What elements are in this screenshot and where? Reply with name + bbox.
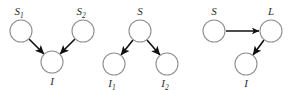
node-label-s: S — [211, 5, 217, 17]
node-s — [129, 20, 151, 42]
panel-collider-structure: S1 S2 I — [10, 5, 94, 87]
node-i1 — [103, 53, 125, 75]
edge-s-to-i1 — [121, 40, 133, 55]
causal-graph-figure: S1 S2 I S I1 I2 S L I — [0, 0, 297, 90]
node-label-i2: I2 — [160, 77, 169, 90]
edge-l-to-i — [253, 40, 264, 55]
node-i — [235, 53, 257, 75]
node-label-i: I — [243, 77, 249, 89]
causal-graph-canvas: S1 S2 I S I1 I2 S L I — [0, 0, 297, 90]
node-label-i: I — [49, 75, 55, 87]
node-label-i1: I1 — [107, 77, 115, 90]
node-label-s1: S1 — [14, 5, 23, 20]
node-s1 — [10, 20, 32, 42]
panel-fork-structure: S I1 I2 — [103, 5, 178, 90]
node-label-s2: S2 — [76, 5, 86, 20]
node-i — [41, 51, 63, 73]
edge-s2-to-i — [60, 39, 75, 54]
node-s2 — [72, 20, 94, 42]
panel-chain-structure: S L I — [203, 5, 282, 89]
node-label-l: L — [267, 5, 274, 17]
node-label-s: S — [137, 5, 143, 17]
node-l — [260, 20, 282, 42]
edge-s1-to-i — [29, 39, 44, 54]
edge-s-to-i2 — [147, 40, 160, 55]
node-s — [203, 20, 225, 42]
node-i2 — [156, 53, 178, 75]
